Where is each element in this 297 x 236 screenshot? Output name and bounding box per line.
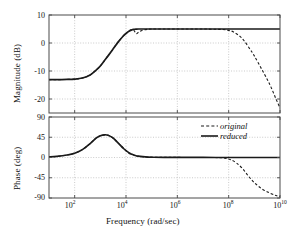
xtick-1e6: 106 — [163, 201, 187, 210]
xtick-1e6-base: 10 — [170, 201, 178, 210]
magnitude-ytick-0: 0 — [18, 39, 45, 48]
magnitude-ytick-minus10: -10 — [18, 67, 45, 76]
xtick-1e8-exp: 8 — [231, 199, 234, 205]
xtick-1e10: 1010 — [267, 201, 293, 210]
phase-ytick-45: 45 — [18, 133, 45, 142]
magnitude-ytick-10: 10 — [18, 11, 45, 20]
xtick-1e6-exp: 6 — [178, 199, 181, 205]
phase-ytick-0: 0 — [18, 153, 45, 162]
xtick-1e4: 104 — [110, 201, 134, 210]
xtick-1e2-exp: 2 — [73, 199, 76, 205]
legend-label-reduced: reduced — [220, 131, 247, 141]
phase-ytick-minus90: -90 — [18, 193, 45, 202]
xtick-1e2: 102 — [58, 201, 82, 210]
xtick-1e8-base: 10 — [223, 201, 231, 210]
xtick-1e8: 108 — [216, 201, 240, 210]
xtick-1e10-exp: 10 — [281, 199, 287, 205]
xtick-1e2-base: 10 — [65, 201, 73, 210]
xtick-1e4-exp: 4 — [125, 199, 128, 205]
magnitude-ytick-minus20: -20 — [18, 95, 45, 104]
bode-plot-figure: original reduced Magnitude (dB) Phase (d… — [0, 0, 297, 236]
frequency-axis-label: Frequency (rad/sec) — [106, 216, 180, 226]
phase-ytick-minus45: -45 — [18, 173, 45, 182]
legend-label-original: original — [220, 121, 247, 131]
xtick-1e4-base: 10 — [117, 201, 125, 210]
phase-ytick-90: 90 — [18, 113, 45, 122]
